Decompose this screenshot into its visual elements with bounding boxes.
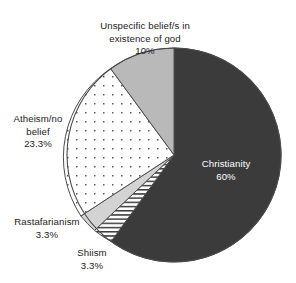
slice-label-atheism-text: Atheism/no belief [14, 113, 63, 136]
pie-chart: Unspecific belief/s in existence of god … [0, 0, 296, 283]
slice-label-atheism-percent: 23.3% [2, 138, 74, 150]
slice-label-christianity-text: Christianity [202, 158, 251, 169]
slice-label-rastafarianism-text: Rastafarianism [14, 216, 79, 227]
slice-label-christianity: Christianity 60% [186, 146, 266, 196]
slice-label-christianity-percent: 60% [186, 171, 266, 183]
slice-label-shiism-percent: 3.3% [56, 260, 128, 272]
slice-label-shiism: Shiism 3.3% [56, 235, 128, 283]
slice-label-atheism: Atheism/no belief 23.3% [2, 101, 74, 163]
slice-label-unspecific-belief-percent: 10% [72, 45, 218, 57]
slice-label-shiism-text: Shiism [77, 247, 106, 258]
slice-label-unspecific-belief-text: Unspecific belief/s in existence of god [100, 20, 190, 43]
slice-label-unspecific-belief: Unspecific belief/s in existence of god … [72, 8, 218, 70]
